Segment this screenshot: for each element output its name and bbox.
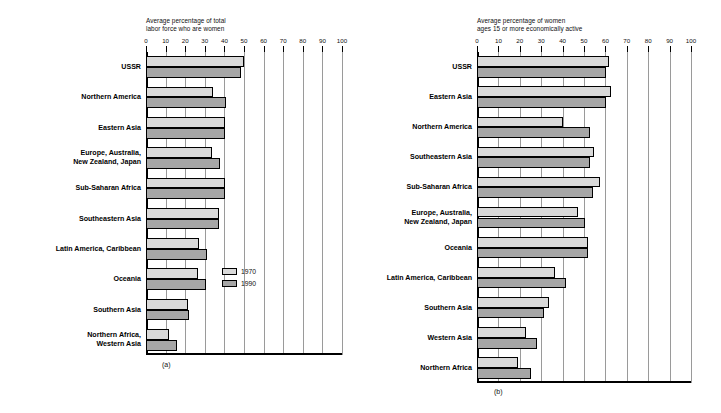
bar-1970 [477,327,526,338]
gridline [283,52,284,355]
gridline [322,52,323,355]
bar-1970 [477,207,578,218]
bar-1990 [477,187,593,198]
x-axis-tick-label: 40 [559,37,566,44]
legend-swatch-1970 [222,268,237,275]
bar-1970 [477,357,518,368]
category-label: Oceania [360,243,472,252]
bar-1990 [146,249,207,260]
x-axis-tick-label: 100 [337,37,347,44]
x-axis-tick [303,46,304,52]
bar-1990 [477,338,537,349]
bar-1970 [146,87,213,98]
x-axis-tick [264,46,265,52]
x-axis-tick-label: 20 [516,37,523,44]
category-label: Southern Asia [0,305,141,314]
x-axis-tick-label: 0 [144,37,147,44]
bar-1970 [146,178,225,189]
bar-1990 [477,97,606,108]
category-label: Eastern Asia [0,123,141,132]
x-axis-tick [648,46,649,52]
x-axis-tick [166,46,167,52]
bar-1990 [477,308,544,319]
x-axis-tick-label: 30 [538,37,545,44]
category-label: Sub-Saharan Africa [0,184,141,193]
bar-1970 [146,299,188,310]
gridline [244,52,245,355]
bar-1990 [146,128,225,139]
legend-label: 1990 [241,280,256,287]
gridline [303,52,304,355]
category-label: Eastern Asia [360,93,472,102]
legend-swatch-1990 [222,280,237,287]
x-axis-tick [322,46,323,52]
x-axis-tick-label: 10 [495,37,502,44]
category-label: Northern America [0,93,141,102]
x-axis-tick [520,46,521,52]
bar-1990 [146,279,206,290]
x-axis-tick [584,46,585,52]
bar-1970 [477,297,549,308]
bar-1970 [146,208,219,219]
category-label: Southeastern Asia [0,214,141,223]
bar-1970 [146,329,169,340]
x-axis-tick-label: 70 [280,37,287,44]
x-axis-tick-label: 100 [686,37,696,44]
legend-label: 1970 [241,268,256,275]
x-axis-line [146,353,342,355]
bar-1990 [477,278,566,289]
bar-1970 [477,177,600,188]
panel-a: Average percentage of total labor force … [0,0,365,413]
category-label: USSR [0,63,141,72]
category-label: Southern Asia [360,303,472,312]
x-axis-tick [541,46,542,52]
category-label: Northern America [360,123,472,132]
x-axis-line [477,381,691,383]
gridline [648,52,649,383]
x-axis-tick [185,46,186,52]
bar-1990 [477,218,585,229]
panel-a-caption: (a) [162,361,171,368]
x-axis-tick-label: 60 [602,37,609,44]
bar-1970 [477,117,563,128]
x-axis-tick [627,46,628,52]
x-axis-tick-label: 20 [182,37,189,44]
panel-b-caption: (b) [494,388,503,395]
figure-root: Average percentage of total labor force … [0,0,721,413]
bar-1990 [477,127,590,138]
gridline [264,52,265,355]
gridline [627,52,628,383]
panel-b-title: Average percentage of women ages 15 or m… [477,17,582,33]
bar-1990 [477,157,590,168]
panel-b-plot-area: 0102030405060708090100 [477,52,691,383]
category-label: Southeastern Asia [360,153,472,162]
category-label: Oceania [0,275,141,284]
x-axis-tick [477,46,478,52]
bar-1970 [146,56,244,67]
bar-1970 [477,237,588,248]
x-axis-tick-label: 70 [623,37,630,44]
x-axis-tick [224,46,225,52]
x-axis-tick-label: 30 [201,37,208,44]
x-axis-tick [498,46,499,52]
bar-1970 [146,147,212,158]
category-label: Northern Africa, Western Asia [0,331,141,349]
x-axis-tick [563,46,564,52]
category-label: Latin America, Caribbean [360,273,472,282]
bar-1970 [477,147,594,158]
bar-1970 [146,268,198,279]
bar-1990 [477,248,588,259]
x-axis-tick-label: 0 [475,37,478,44]
category-label: Sub-Saharan Africa [360,183,472,192]
bar-1990 [146,188,225,199]
bar-1970 [146,117,225,128]
x-axis-tick [244,46,245,52]
x-axis-tick-label: 80 [299,37,306,44]
bar-1970 [477,86,611,97]
bar-1990 [146,97,226,108]
category-label: Europe, Australia, New Zealand, Japan [360,209,472,227]
x-axis-tick-label: 80 [645,37,652,44]
x-axis-tick [605,46,606,52]
bar-1990 [146,340,177,351]
bar-1970 [477,56,609,67]
